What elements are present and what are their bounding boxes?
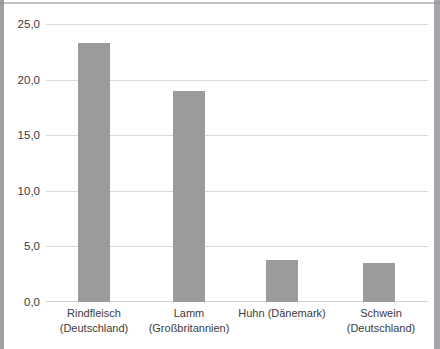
x-category-rindfleisch-line2: (Deutschland) xyxy=(44,321,144,336)
x-category-huhn-line1: Huhn (Dänemark) xyxy=(238,307,325,319)
y-tick-label-20: 20,0 xyxy=(18,74,40,86)
x-category-rindfleisch: Rindfleisch (Deutschland) xyxy=(44,306,144,336)
bar-rindfleisch[interactable] xyxy=(78,43,110,302)
x-axis-labels: Rindfleisch (Deutschland) Lamm (Großbrit… xyxy=(46,306,428,346)
x-category-lamm: Lamm (Großbritannien) xyxy=(136,306,242,336)
y-axis-labels: 0,0 5,0 10,0 15,0 20,0 25,0 xyxy=(0,24,40,302)
x-category-huhn: Huhn (Dänemark) xyxy=(229,306,335,321)
y-tick-label-15: 15,0 xyxy=(18,129,40,141)
x-category-lamm-line1: Lamm xyxy=(174,307,205,319)
y-tick-label-10: 10,0 xyxy=(18,185,40,197)
bar-lamm[interactable] xyxy=(173,91,205,302)
bar-schwein[interactable] xyxy=(363,263,395,302)
x-category-schwein-line1: Schwein xyxy=(360,307,402,319)
x-category-schwein: Schwein (Deutschland) xyxy=(331,306,431,336)
y-tick-label-25: 25,0 xyxy=(18,18,40,30)
x-category-lamm-line2: (Großbritannien) xyxy=(136,321,242,336)
bar-chart-figure: 0,0 5,0 10,0 15,0 20,0 25,0 Rindfleisch … xyxy=(0,0,440,349)
gridline-25 xyxy=(46,24,428,25)
bar-huhn[interactable] xyxy=(266,260,298,302)
x-category-rindfleisch-line1: Rindfleisch xyxy=(67,307,121,319)
scan-edge-right xyxy=(434,0,440,349)
x-category-schwein-line2: (Deutschland) xyxy=(331,321,431,336)
plot-area xyxy=(46,24,428,302)
y-tick-label-0: 0,0 xyxy=(24,296,40,308)
y-tick-label-5: 5,0 xyxy=(24,240,40,252)
scan-edge-top xyxy=(0,2,440,4)
